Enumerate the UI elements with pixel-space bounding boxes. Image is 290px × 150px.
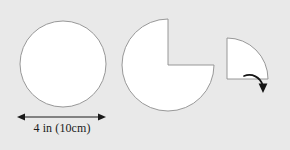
diameter-dimension-arrow	[17, 114, 106, 121]
dimension-label: 4 in (10cm)	[18, 121, 106, 135]
dimension-arrowhead-right	[98, 114, 106, 121]
rotation-arrow-head	[259, 83, 268, 93]
geometry-figure: 4 in (10cm)	[0, 0, 290, 150]
shape-quarter-sector	[227, 38, 268, 79]
shape-three-quarter-circle	[122, 19, 214, 111]
shape-full-circle	[20, 21, 106, 107]
dimension-arrowhead-left	[17, 114, 25, 121]
